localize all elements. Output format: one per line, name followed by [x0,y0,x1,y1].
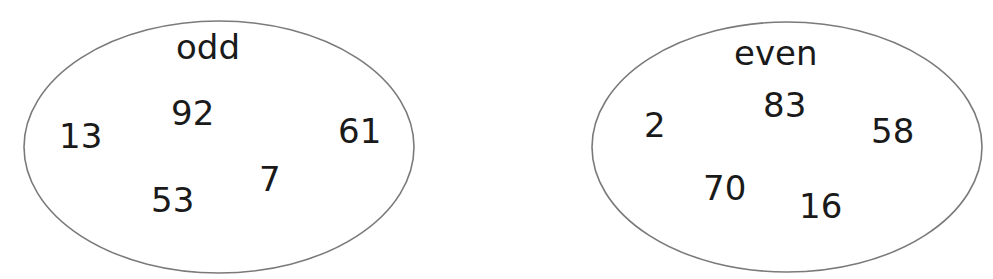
set-element: 53 [151,183,194,217]
set-element: 7 [259,162,281,196]
set-element: 70 [703,171,746,205]
set-odd: odd 13 92 61 7 53 [0,0,430,279]
set-element: 13 [59,119,102,153]
set-element: 16 [799,189,842,223]
set-label-odd: odd [176,30,240,64]
set-element: 92 [171,96,214,130]
set-label-even: even [734,36,818,70]
set-even: even 2 83 58 70 16 [570,0,993,279]
set-element: 61 [338,114,381,148]
set-element: 58 [871,114,914,148]
set-element: 83 [763,88,806,122]
set-element: 2 [644,108,666,142]
